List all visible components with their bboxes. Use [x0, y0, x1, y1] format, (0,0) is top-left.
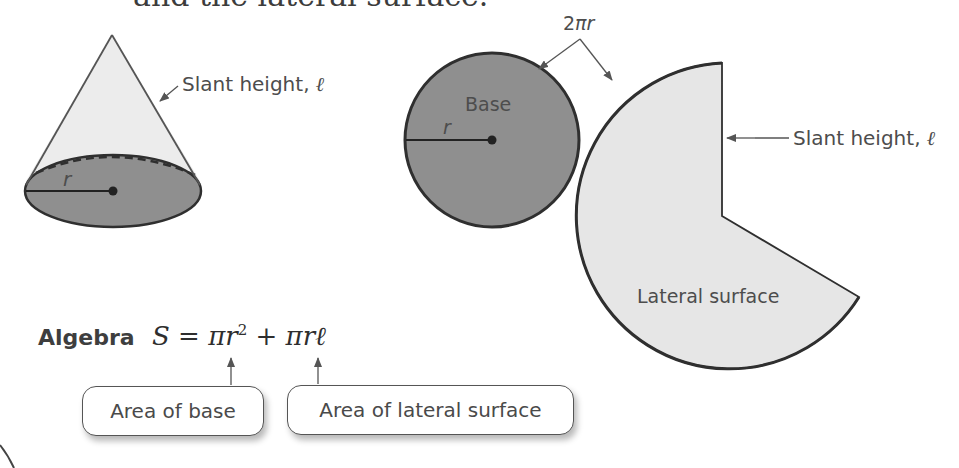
net-base-label: Base [465, 93, 511, 115]
area-of-lateral-surface-box: Area of lateral surface [287, 385, 574, 435]
formula-equals: = [170, 321, 208, 351]
circumference-arrow-lateral [580, 39, 612, 80]
net: Lateral surface Base r 2πr Slant height,… [405, 12, 936, 369]
formula-lhs: S [152, 321, 170, 351]
net-slant-label: Slant height, ℓ [793, 126, 936, 150]
circumference-arrow-base [539, 39, 580, 69]
formula-exponent: 2 [238, 321, 248, 339]
formula-term-base: πr [208, 321, 238, 351]
net-radius-label: r [443, 116, 452, 138]
area-of-base-box: Area of base [82, 386, 264, 436]
lateral-surface-label: Lateral surface [637, 285, 779, 307]
cone: r Slant height, ℓ [25, 35, 325, 227]
surface-area-formula: S = πr2 + πrℓ [152, 321, 326, 352]
circumference-label: 2πr [563, 12, 596, 34]
formula-plus: + [247, 321, 285, 351]
cone-slant-label: Slant height, ℓ [182, 72, 325, 96]
cone-center-dot [109, 187, 118, 196]
formula-term-lateral: πrℓ [286, 321, 326, 351]
net-center-dot [488, 136, 497, 145]
page-border-curve [0, 445, 14, 468]
algebra-label: Algebra [38, 325, 135, 350]
cone-slant-arrow [160, 86, 178, 101]
